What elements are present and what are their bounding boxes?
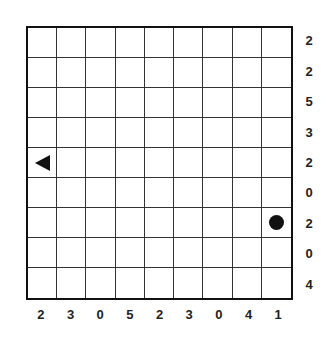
grid-cell[interactable] [57,268,86,298]
grid-cell[interactable] [116,208,145,238]
grid-cell[interactable] [28,178,57,208]
grid-cell[interactable] [86,268,115,298]
grid-cell[interactable] [262,178,291,208]
grid-cell[interactable] [116,178,145,208]
grid-cell[interactable] [57,148,86,178]
row-clue: 2 [300,155,318,170]
grid-cell[interactable] [262,268,291,298]
grid-cell[interactable] [116,238,145,268]
grid-cell[interactable] [116,118,145,148]
grid-cell[interactable] [145,148,174,178]
column-clue: 4 [239,307,259,322]
grid-cell[interactable] [233,148,262,178]
grid-cell[interactable] [86,178,115,208]
grid-cell[interactable] [203,178,232,208]
row-clue: 2 [300,216,318,231]
grid-cell[interactable] [57,238,86,268]
row-clue: 2 [300,33,318,48]
grid-cell[interactable] [86,58,115,88]
grid-cell[interactable] [233,28,262,58]
row-clue: 5 [300,94,318,109]
grid-cell[interactable] [174,88,203,118]
grid-cell[interactable] [57,208,86,238]
grid-cell[interactable] [203,208,232,238]
grid-cell[interactable] [57,118,86,148]
grid-cell[interactable] [57,178,86,208]
grid-cell[interactable] [233,268,262,298]
column-clue: 1 [268,307,288,322]
row-clue: 4 [300,277,318,292]
grid-cell[interactable] [116,28,145,58]
grid-cell[interactable] [262,28,291,58]
grid-cell[interactable] [28,118,57,148]
grid-cell[interactable] [233,88,262,118]
column-clue: 2 [150,307,170,322]
grid-cell[interactable] [233,238,262,268]
grid-cell[interactable] [233,178,262,208]
column-clue: 0 [209,307,229,322]
grid-cell[interactable] [86,148,115,178]
grid-cell[interactable] [262,88,291,118]
grid-cell[interactable] [28,88,57,118]
grid-cell[interactable] [28,208,57,238]
circle-icon [269,215,284,230]
grid-cell[interactable] [174,118,203,148]
grid-cell[interactable] [174,208,203,238]
grid-cell[interactable] [174,148,203,178]
grid-cell[interactable] [174,28,203,58]
grid-cell[interactable] [145,118,174,148]
grid-cell[interactable] [174,178,203,208]
grid-cell[interactable] [28,238,57,268]
grid-cell[interactable] [28,28,57,58]
grid-cell[interactable] [203,238,232,268]
grid-cell[interactable] [203,88,232,118]
row-clue: 3 [300,125,318,140]
grid-cell[interactable] [86,118,115,148]
grid-cell[interactable] [57,58,86,88]
row-clue: 2 [300,64,318,79]
grid-cell[interactable] [203,58,232,88]
puzzle-grid [26,26,293,300]
grid-cell[interactable] [174,238,203,268]
grid-cell[interactable] [28,268,57,298]
grid-cell[interactable] [203,148,232,178]
grid-cell[interactable] [145,88,174,118]
grid-cell[interactable] [28,148,57,178]
grid-cell[interactable] [233,118,262,148]
column-clue: 3 [61,307,81,322]
grid-cell[interactable] [233,58,262,88]
grid-cell[interactable] [116,88,145,118]
column-clue: 2 [31,307,51,322]
grid-cell[interactable] [116,148,145,178]
column-clue: 3 [179,307,199,322]
grid-cell[interactable] [203,28,232,58]
grid-cell[interactable] [262,238,291,268]
grid-cell[interactable] [174,268,203,298]
grid-cell[interactable] [145,58,174,88]
grid-cell[interactable] [28,58,57,88]
grid-cell[interactable] [116,58,145,88]
grid-cell[interactable] [145,178,174,208]
grid-cell[interactable] [145,268,174,298]
grid-cell[interactable] [145,28,174,58]
grid-cell[interactable] [86,28,115,58]
grid-cell[interactable] [262,148,291,178]
grid-cell[interactable] [145,208,174,238]
grid-cell[interactable] [86,88,115,118]
grid-cell[interactable] [57,28,86,58]
grid-cell[interactable] [262,118,291,148]
row-clue: 0 [300,246,318,261]
grid-cell[interactable] [174,58,203,88]
grid-cell[interactable] [145,238,174,268]
grid-cell[interactable] [86,238,115,268]
column-clue: 0 [90,307,110,322]
grid-cell[interactable] [57,88,86,118]
grid-cell[interactable] [262,58,291,88]
row-clue: 0 [300,185,318,200]
grid-cell[interactable] [203,268,232,298]
grid-cell[interactable] [262,208,291,238]
grid-cell[interactable] [86,208,115,238]
grid-cell[interactable] [116,268,145,298]
grid-cell[interactable] [203,118,232,148]
grid-cell[interactable] [233,208,262,238]
